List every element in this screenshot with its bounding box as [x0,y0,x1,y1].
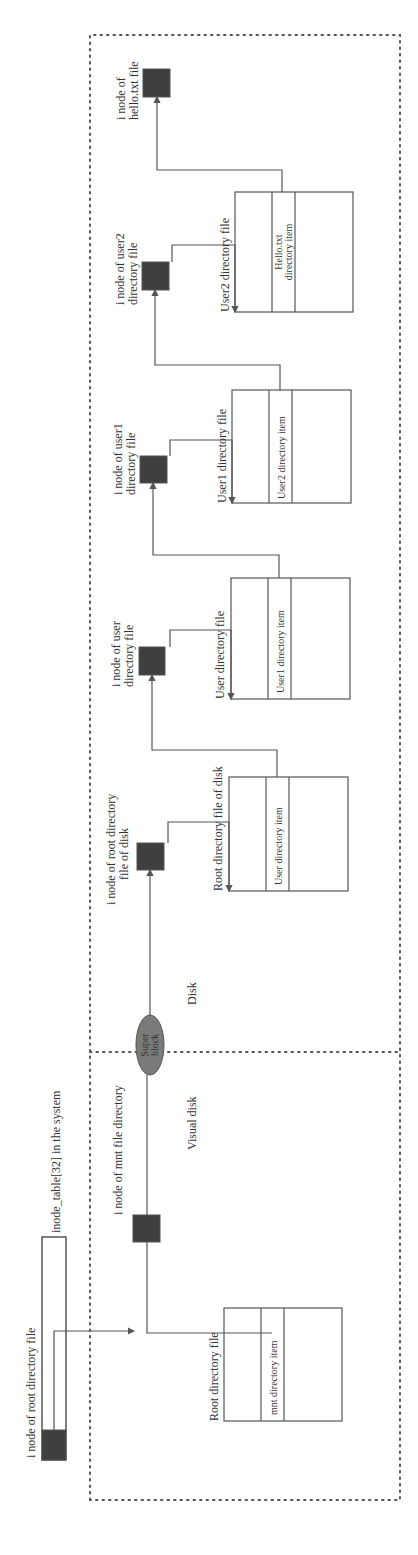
user-item-label: User directory item [273,807,284,885]
inode-root-disk-label-2: file of disk [117,828,131,880]
inode-root-dir-cell [42,1430,66,1460]
inode-user1-label-1: i node of user1 [111,423,125,495]
hello-item-label-2: directory item [283,224,294,281]
inode-lookup-diagram: i node of root directory file inode_tabl… [0,0,418,1555]
visual-disk-label: Visual disk [185,1096,199,1150]
inode-user-label-2: directory file [122,625,136,687]
mnt-item-label: mnt directory item [268,1340,279,1415]
inode-user [139,647,165,675]
user1-item-label: User1 directory item [275,610,286,693]
inode-root-disk [137,843,164,870]
link-hello-item-to-hello-inode [157,97,282,192]
inode-table-label: inode_table[32] in the system [49,1090,63,1233]
user2-dir-file-box [235,192,353,312]
inode-hello [143,69,170,97]
disk-label: Disk [185,982,199,1005]
inode-user1-label-2: directory file [124,433,138,495]
inode-mnt-label: i node of mnt file directory [111,1085,125,1215]
inode-user2-label-1: i node of user2 [113,233,127,305]
inode-mnt [133,1215,160,1242]
user2-dir-file-label: User2 directory file [218,218,232,312]
inode-hello-label-1: i node of [114,77,128,120]
diagram-stage: i node of root directory file inode_tabl… [0,0,418,1555]
root-dir-file-label: Root directory file [207,1332,221,1421]
superblock-label-2: block [149,1034,160,1056]
link-mnt-item-to-mnt-inode [147,1215,272,1333]
user2-item-label: User2 directory item [276,416,287,499]
inode-root-dir-label: i node of root directory file [24,1328,38,1458]
inode-user2-label-2: directory file [126,243,140,305]
inode-user2 [142,262,169,290]
inode-user1 [140,456,167,483]
inode-user-label-1: i node of user [109,621,123,687]
root-dir-file-disk-label: Root directory file of disk [211,766,225,891]
root-dir-file-box [224,1308,342,1421]
user1-dir-file-label: User1 directory file [215,409,229,503]
inode-hello-label-2: hello.txt file [127,61,141,120]
inode-root-disk-label-1: i node of root directory [104,794,118,905]
user-dir-file-label: User directory file [213,611,227,699]
